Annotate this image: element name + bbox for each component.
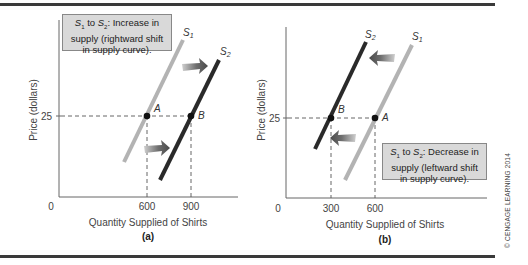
annotation-line-1: S1 to S2: Increase in — [66, 17, 168, 33]
point-a-marker — [372, 115, 379, 122]
point-a-marker — [144, 113, 151, 120]
y-axis-label-b: Price (dollars) — [256, 79, 267, 141]
point-label-a: A — [381, 112, 389, 123]
annotation-line-3: in supply curve). — [66, 44, 168, 55]
panel-caption-a: (a) — [142, 231, 154, 242]
annotation-line-2: supply (leftward shift — [386, 162, 483, 173]
supply-curve-s2-a — [160, 60, 219, 180]
annotation-line-3: in supply curve). — [386, 173, 483, 184]
y-tick-25-a: 25 — [41, 111, 53, 122]
left-arrow-icon — [369, 50, 395, 66]
x-axis-label-a: Quantity Supplied of Shirts — [89, 217, 207, 228]
x-tick-600-b: 600 — [367, 203, 384, 214]
curve-label-s1-a: S1 — [183, 27, 194, 39]
supply-curve-s1-a — [124, 40, 183, 162]
supply-curve-s2-b — [315, 42, 366, 149]
x-tick-900-a: 900 — [183, 201, 200, 212]
origin-label-b: 0 — [275, 203, 281, 214]
point-label-b: B — [338, 104, 345, 115]
left-arrow-icon — [330, 130, 356, 146]
point-b-marker — [328, 115, 335, 122]
x-tick-600-a: 600 — [139, 201, 156, 212]
curve-label-s2-a: S2 — [220, 46, 231, 58]
y-tick-25-b: 25 — [269, 113, 281, 124]
curve-label-s1-b: S1 — [412, 31, 423, 43]
curve-label-s2-b: S2 — [365, 29, 376, 41]
annotation-box-a: S1 to S2: Increase in supply (rightward … — [62, 14, 172, 51]
point-b-marker — [188, 113, 195, 120]
x-tick-300-b: 300 — [323, 203, 340, 214]
point-label-a: A — [153, 103, 161, 114]
origin-label-a: 0 — [48, 201, 54, 212]
panel-caption-b: (b) — [379, 234, 392, 245]
annotation-box-b: S1 to S2: Decrease in supply (leftward s… — [382, 143, 487, 180]
annotation-line-1: S1 to S2: Decrease in — [386, 146, 483, 162]
right-arrow-icon — [182, 58, 208, 74]
right-arrow-icon — [144, 140, 170, 156]
point-label-b: B — [198, 110, 205, 121]
x-axis-label-b: Quantity Supplied of Shirts — [326, 219, 444, 230]
annotation-line-2: supply (rightward shift — [66, 33, 168, 44]
copyright-notice: © CENGAGE LEARNING 2014 — [504, 153, 511, 248]
y-axis-label-a: Price (dollars) — [28, 79, 39, 141]
